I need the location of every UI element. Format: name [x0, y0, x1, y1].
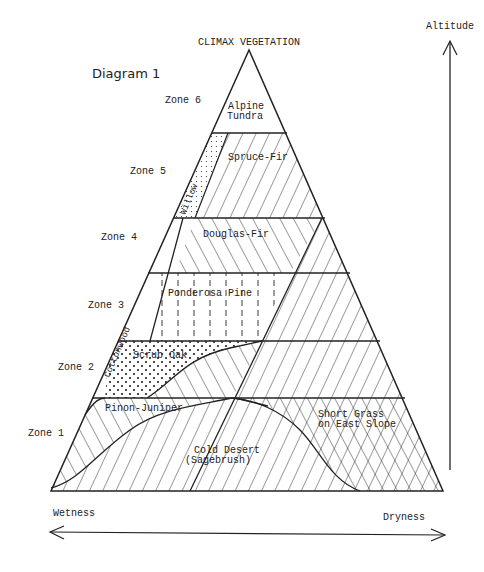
ponderosa-pine-label: Ponderosa Pine [168, 288, 252, 299]
wetness-label: Wetness [53, 508, 95, 519]
scrub-oak-label: Scrub Oak [133, 350, 187, 361]
zone-4-label: Zone 4 [101, 232, 137, 243]
short-grass-label-2: on East Slope [318, 419, 396, 430]
altitude-arrow [443, 41, 457, 470]
dryness-label: Dryness [383, 512, 425, 523]
diagram-label: Diagram 1 [92, 66, 160, 81]
zone-6-label: Zone 6 [165, 95, 201, 106]
altitude-label: Altitude [426, 21, 474, 32]
zone-2-label: Zone 2 [58, 362, 94, 373]
alpine-tundra-label-2: Tundra [227, 111, 263, 122]
zone-3-label: Zone 3 [88, 300, 124, 311]
diagram-title: CLIMAX VEGETATION [198, 37, 300, 48]
cold-desert-label-2: (Sagebrush) [185, 455, 251, 466]
spruce-fir-label: Spruce-Fir [228, 152, 288, 163]
douglas-fir-label: Douglas-Fir [203, 229, 269, 240]
climax-vegetation-diagram: CLIMAX VEGETATION Diagram 1 Altitude [0, 0, 484, 572]
wetness-dryness-arrow [50, 526, 445, 541]
pinon-juniper-label: Pinon-Juniper [105, 403, 183, 414]
zone-5-label: Zone 5 [130, 166, 166, 177]
zone-1-label: Zone 1 [28, 428, 64, 439]
